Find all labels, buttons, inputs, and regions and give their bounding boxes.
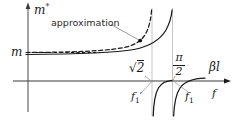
x-axis-label-beta-l: βl bbox=[209, 61, 220, 73]
pi-over-2-numerator: π bbox=[171, 52, 187, 64]
y-axis-label-superscript: * bbox=[45, 2, 49, 11]
figure-container: m* m approximation √2 π2 βl f1′ f1 f bbox=[0, 0, 242, 120]
pi-over-2-label: π2 bbox=[171, 52, 187, 78]
f1-subscript: 1 bbox=[189, 96, 194, 105]
sqrt2-value: 2 bbox=[137, 60, 145, 75]
approximation-annotation-label: approximation bbox=[51, 18, 120, 28]
x-axis-label-f: f bbox=[212, 88, 216, 99]
radical-icon: √ bbox=[129, 61, 137, 75]
curve-f1-prime-branch bbox=[153, 80, 172, 116]
x-axis-arrowhead bbox=[224, 78, 231, 83]
y-axis-arrowhead bbox=[26, 3, 31, 10]
curve-label-f1: f1 bbox=[185, 91, 194, 105]
y-axis-label: m* bbox=[34, 3, 49, 16]
y-axis-tick-label-m: m bbox=[11, 46, 22, 58]
sqrt2-label: √2 bbox=[129, 62, 144, 74]
callout-marker-dot bbox=[138, 39, 142, 43]
plot-canvas bbox=[0, 0, 242, 120]
y-axis-label-base: m bbox=[34, 3, 45, 17]
leader-f1-prime bbox=[142, 82, 151, 92]
pi-over-2-denominator: 2 bbox=[171, 66, 187, 79]
curve-label-f1-prime: f1′ bbox=[131, 91, 142, 105]
leader-sqrt2 bbox=[145, 76, 151, 81]
prime-mark-icon: ′ bbox=[140, 90, 143, 103]
